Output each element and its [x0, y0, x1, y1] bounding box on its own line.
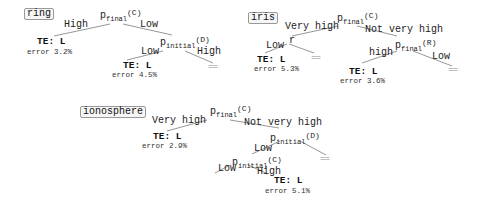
leaf-te-label: TE: L [274, 176, 303, 186]
leaf-te-label: TE: L [349, 67, 378, 77]
leaf-error-value: error 2.9% [142, 143, 187, 151]
node-subscript: final [401, 45, 422, 53]
edge-label-high: High [64, 20, 88, 30]
node-subscript: initial [166, 42, 195, 50]
edge-label-not-very-high: Not very high [365, 25, 443, 35]
split-node-p-final: pfinal(C) [100, 9, 141, 23]
node-type: (C) [127, 8, 141, 17]
edge-label-not-very-high: Not very high [244, 118, 322, 128]
leaf-error-value: error 4.5% [112, 72, 157, 80]
edge-label-high: high [369, 48, 393, 58]
collapsed-subtree-icon: == [311, 54, 320, 63]
node-type: (C) [267, 155, 281, 164]
edge-label-low: Low [140, 20, 158, 30]
leaf-te-label: TE: L [257, 55, 286, 65]
node-subscript: initial [276, 138, 305, 146]
edge-label-low: Low [254, 144, 272, 154]
leaf-error-value: error 3.6% [340, 78, 385, 86]
collapsed-subtree-icon: == [208, 63, 217, 72]
tree-title-iris: iris [248, 12, 278, 24]
leaf-error-value: error 5.1% [265, 188, 310, 196]
leaf-error-value: error 5.3% [254, 66, 299, 74]
tree-title-ionosphere: ionosphere [80, 106, 146, 118]
split-node-p-initial-d: pinitial(D) [270, 132, 320, 146]
node-type: (C) [237, 104, 251, 113]
node-type: (D) [305, 131, 319, 140]
leaf-error-value: error 3.2% [27, 49, 72, 57]
node-subscript: final [216, 111, 237, 119]
edge-label-very-high: Very high [152, 116, 206, 126]
split-node-p-final-r: pfinal(R) [395, 39, 436, 53]
edge-label-low: Low [432, 52, 450, 62]
split-node-r: r [289, 36, 295, 46]
leaf-te-label: TE: L [123, 61, 152, 71]
collapsed-subtree-icon: == [448, 66, 457, 75]
tree-title-ring: ring [24, 8, 54, 20]
node-type: (R) [422, 38, 436, 47]
edge-label-low: Low [141, 47, 159, 57]
node-subscript: final [343, 18, 364, 26]
decision-trees-figure: ring pfinal(C) High Low TE: L error 3.2%… [0, 0, 478, 201]
edge-label-low: Low [218, 164, 236, 174]
edge-label-low: Low [266, 41, 284, 51]
edge-label-high: High [197, 47, 221, 57]
leaf-te-label: TE: L [153, 132, 182, 142]
leaf-te-label: TE: L [37, 37, 66, 47]
edge-label-very-high: Very high [285, 22, 339, 32]
node-type: (C) [364, 11, 378, 20]
node-variable: r [289, 35, 295, 46]
collapsed-subtree-icon: == [320, 155, 329, 164]
node-subscript: final [106, 15, 127, 23]
node-type: (D) [195, 35, 209, 44]
